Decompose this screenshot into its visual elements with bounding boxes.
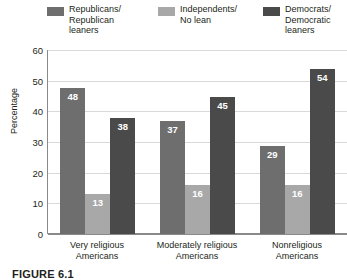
legend-item-democrats: Democrats/ Democratic leaners [263, 4, 347, 36]
legend-item-independents: Independents/ No lean [158, 4, 258, 25]
legend-label-republicans: Republicans/ Republican leaners [69, 4, 121, 36]
bar-group-nonreligious: 29 16 54 [247, 50, 347, 234]
bar-value-label: 13 [85, 197, 110, 208]
bar-group-very-religious: 48 13 38 [48, 50, 148, 234]
bar-nonreligious-democrats: 54 [310, 69, 335, 234]
legend-item-republicans: Republicans/ Republican leaners [47, 4, 147, 36]
chart-plot-area: Percentage 60 50 40 30 20 10 0 48 13 [0, 44, 347, 240]
bar-value-label: 16 [285, 188, 310, 199]
bar-very-religious-democrats: 38 [110, 118, 135, 234]
legend-swatch-democrats [263, 7, 280, 16]
x-axis-labels: Very religious Americans Moderately reli… [47, 240, 347, 262]
x-label-moderately-religious: Moderately religious Americans [147, 240, 247, 262]
y-tick-40: 40 [3, 106, 43, 117]
x-label-nonreligious: Nonreligious Americans [247, 240, 347, 262]
bar-moderately-religious-independents: 16 [185, 185, 210, 234]
bar-very-religious-republicans: 48 [60, 88, 85, 234]
legend-label-democrats: Democrats/ Democratic leaners [285, 4, 331, 36]
bar-groups: 48 13 38 37 16 [48, 50, 347, 234]
y-tick-20: 20 [3, 167, 43, 178]
plot-canvas: 48 13 38 37 16 [47, 50, 347, 234]
bar-value-label: 16 [185, 188, 210, 199]
bar-very-religious-independents: 13 [85, 194, 110, 234]
bar-nonreligious-independents: 16 [285, 185, 310, 234]
y-tick-30: 30 [3, 137, 43, 148]
bar-value-label: 29 [260, 149, 285, 160]
y-tick-60: 60 [3, 45, 43, 56]
bar-moderately-religious-democrats: 45 [210, 97, 235, 234]
legend-swatch-republicans [47, 7, 64, 16]
bar-nonreligious-republicans: 29 [260, 146, 285, 234]
chart-legend: Republicans/ Republican leaners Independ… [0, 4, 347, 46]
legend-swatch-independents [158, 7, 175, 16]
bar-value-label: 48 [60, 91, 85, 102]
figure-caption: FIGURE 6.1 [12, 268, 74, 280]
bar-moderately-religious-republicans: 37 [160, 121, 185, 234]
x-label-very-religious: Very religious Americans [47, 240, 147, 262]
bar-value-label: 54 [310, 72, 335, 83]
y-tick-50: 50 [3, 75, 43, 86]
bar-value-label: 37 [160, 124, 185, 135]
y-axis-ticks: 60 50 40 30 20 10 0 [0, 44, 43, 240]
y-tick-0: 0 [3, 229, 43, 240]
bar-value-label: 38 [110, 121, 135, 132]
bar-group-moderately-religious: 37 16 45 [148, 50, 248, 234]
y-tick-10: 10 [3, 198, 43, 209]
legend-label-independents: Independents/ No lean [180, 4, 237, 25]
bar-value-label: 45 [210, 100, 235, 111]
